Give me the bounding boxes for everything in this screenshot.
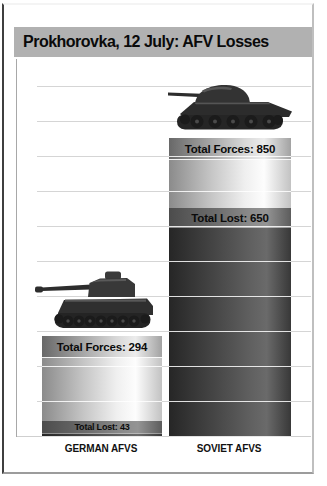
axis-label-soviet-afvs: SOVIET AFVS [168,441,290,455]
soviet-total-forces-label-strip: Total Forces: 850 [169,138,291,160]
german-total-lost-label: Total Lost: 43 [74,422,129,432]
axis-label-german-afvs: GERMAN AFVS [41,441,161,455]
soviet-total-lost-label-strip: Total Lost: 650 [169,208,291,228]
soviet-total-lost-segment: Total Lost: 650 [169,208,291,437]
plot-area: Total Forces: 294 Total Lost: 43 Total F… [16,59,313,437]
bar-german-afvs: Total Forces: 294 Total Lost: 43 [42,336,162,437]
panzer-iv-tank-icon [34,271,154,331]
german-total-lost-segment: Total Lost: 43 [42,421,162,437]
chart-title-banner: Prokhorovka, 12 July: AFV Losses [14,27,314,57]
german-total-forces-label: Total Forces: 294 [57,341,147,353]
soviet-total-forces-label: Total Forces: 850 [185,143,275,155]
bar-soviet-afvs: Total Forces: 850 Total Lost: 650 [169,138,291,437]
german-total-lost-label-strip: Total Lost: 43 [42,421,162,434]
german-total-forces-label-strip: Total Forces: 294 [42,336,162,358]
chart-title: Prokhorovka, 12 July: AFV Losses [14,33,269,51]
soviet-total-lost-label: Total Lost: 650 [191,212,268,224]
t-34-tank-icon [166,83,294,131]
